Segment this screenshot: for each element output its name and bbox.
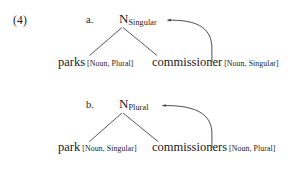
mother-category-b: N (119, 96, 128, 111)
terminals-a: parks[Noun, Plural] commissioner[Noun, S… (0, 55, 303, 75)
terminals-b: park[Noun, Singular] commissioners[Noun,… (0, 140, 303, 160)
terminal-a-right-features: [Noun, Singular] (222, 59, 278, 68)
subexample-a: a. NSingular parks[Noun, Plural] commiss… (0, 0, 303, 85)
subexample-b: b. NPlural park[Noun, Singular] commissi… (0, 85, 303, 170)
mother-category-a: N (119, 11, 128, 26)
mother-node-b: NPlural (119, 97, 149, 113)
terminal-b-right-word: commissioners (152, 140, 227, 154)
subexample-a-label: a. (86, 14, 93, 26)
mother-feature-subscript-b: Plural (128, 103, 148, 112)
terminal-b-left: park[Noun, Singular] (58, 140, 137, 156)
mother-feature-subscript-a: Singular (128, 18, 157, 27)
terminal-a-left: parks[Noun, Plural] (58, 55, 134, 71)
mother-node-a: NSingular (119, 12, 157, 28)
terminal-b-left-word: park (58, 140, 80, 154)
example-figure: (4) a. NSingular parks[Noun, Plural] com… (0, 0, 303, 170)
terminal-a-right-word: commissioner (152, 55, 222, 69)
terminal-b-right-features: [Noun, Plural] (227, 144, 275, 153)
terminal-a-right: commissioner[Noun, Singular] (152, 55, 279, 71)
terminal-a-left-word: parks (58, 55, 85, 69)
terminal-a-left-features: [Noun, Plural] (85, 59, 133, 68)
terminal-b-right: commissioners[Noun, Plural] (152, 140, 275, 156)
subexample-b-label: b. (86, 99, 94, 111)
terminal-b-left-features: [Noun, Singular] (80, 144, 136, 153)
